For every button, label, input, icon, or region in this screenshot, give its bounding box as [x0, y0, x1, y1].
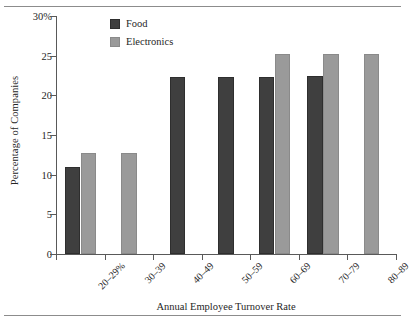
x-axis-title: Annual Employee Turnover Rate — [56, 301, 396, 312]
x-axis-tick-mark — [105, 254, 106, 260]
legend-item-food: Food — [110, 18, 173, 29]
x-axis-tick-mark — [56, 254, 57, 260]
legend: FoodElectronics — [110, 18, 173, 47]
bar-food — [65, 167, 81, 254]
legend-item-electronics: Electronics — [110, 36, 173, 47]
bar-electronics — [364, 54, 380, 254]
legend-swatch-icon — [110, 19, 120, 29]
y-axis-tick-mark — [50, 56, 56, 57]
bar-electronics — [323, 54, 339, 254]
bar-group — [105, 16, 154, 254]
figure-rule-bottom — [4, 315, 401, 316]
bar-group — [202, 16, 251, 254]
bar-group — [347, 16, 396, 254]
bar-food — [218, 77, 234, 254]
bar-group — [153, 16, 202, 254]
bar-electronics — [275, 54, 291, 254]
figure-rule-top — [4, 6, 401, 7]
y-axis-tick-mark — [50, 175, 56, 176]
y-axis-tick-mark — [50, 16, 56, 17]
x-axis-tick-mark — [250, 254, 251, 260]
plot-area: Percentage of Companies 051015202530% 20… — [0, 10, 405, 315]
bar-series-container — [56, 16, 396, 254]
bar-food — [170, 77, 186, 254]
bar-food — [307, 76, 323, 254]
bar-electronics — [81, 153, 97, 254]
legend-item-label: Electronics — [126, 36, 173, 47]
legend-swatch-icon — [110, 37, 120, 47]
bar-group — [299, 16, 348, 254]
y-axis-tick-mark — [50, 135, 56, 136]
y-axis-tick-mark — [50, 214, 56, 215]
x-axis-tick-mark — [299, 254, 300, 260]
x-axis-line — [56, 254, 396, 255]
y-axis-tick-labels: 051015202530% — [22, 10, 52, 254]
x-axis-tick-label: 80–89 — [385, 260, 410, 285]
bar-food — [259, 77, 275, 254]
x-axis-tick-label: 60–69 — [288, 260, 313, 285]
x-axis-tick-mark — [396, 254, 397, 260]
x-axis-tick-mark — [347, 254, 348, 260]
x-axis-tick-mark — [153, 254, 154, 260]
bar-group — [250, 16, 299, 254]
legend-item-label: Food — [126, 18, 148, 29]
x-axis-tick-mark — [202, 254, 203, 260]
x-axis-tick-label: 30–39 — [142, 260, 167, 285]
x-axis-tick-labels: 20–29%30–3940–4950–5960–6970–7980–89 — [56, 260, 396, 306]
x-axis-tick-label: 50–59 — [239, 260, 264, 285]
x-axis-tick-label: 40–49 — [191, 260, 216, 285]
x-axis-tick-label: 70–79 — [336, 260, 361, 285]
y-axis-tick-mark — [50, 95, 56, 96]
x-axis-tick-label: 20–29% — [96, 260, 127, 291]
bar-electronics — [121, 153, 137, 254]
bar-group — [56, 16, 105, 254]
y-axis-title: Percentage of Companies — [9, 41, 20, 221]
